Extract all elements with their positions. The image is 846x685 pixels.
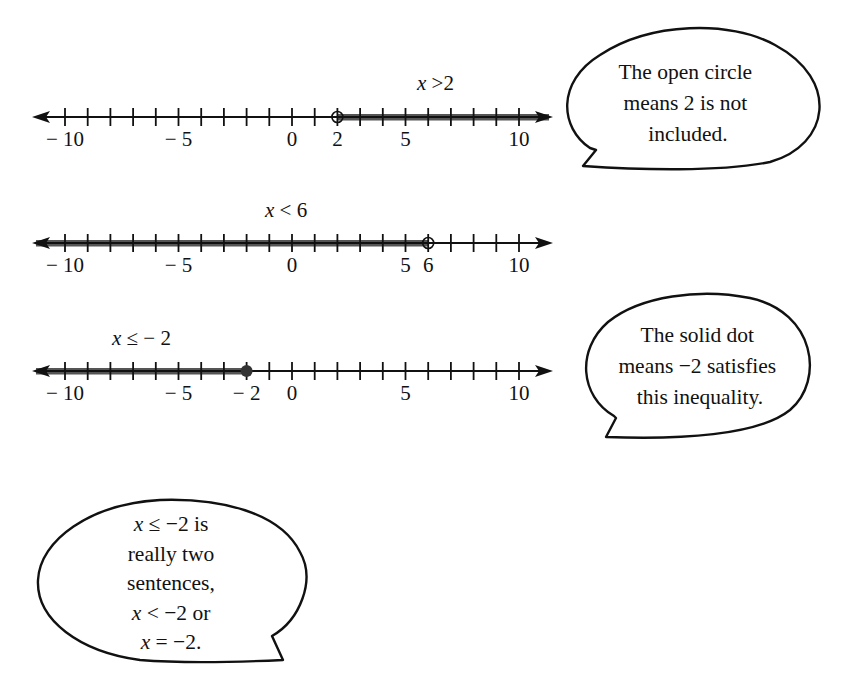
tick-label: 10 [509,381,530,405]
callout-line: really two [128,542,215,566]
tick-label: − 5 [165,381,193,405]
tick-label: − 5 [165,127,193,151]
number-line-line-x-gt-2: − 10− 502510x >2 [32,71,553,151]
callout-open-circle: The open circle means 2 is not included. [567,28,819,169]
tick-label: 0 [287,253,298,277]
callout-line: The solid dot [641,323,754,347]
callout-line: means −2 satisfies [618,354,776,378]
callout-line: x ≤ −2 is [133,512,209,536]
inequality-label: x ≤ − 2 [111,326,171,350]
callout-line: included. [648,122,727,146]
callout-line: means 2 is not [624,91,748,115]
callout-two-sentences: x ≤ −2 isreally twosentences,x < −2 orx … [38,500,306,662]
tick-label: − 2 [233,381,261,405]
tick-label: 10 [509,253,530,277]
callout-line: The open circle [618,60,752,84]
inequality-label: x < 6 [264,198,307,222]
tick-label: 5 [400,253,411,277]
tick-label: 6 [423,253,434,277]
tick-label: − 10 [46,253,84,277]
inequality-label: x >2 [416,71,454,95]
callout-line: x = −2. [140,630,202,654]
tick-label: − 5 [165,253,193,277]
callout-line: x < −2 or [131,601,211,625]
tick-label: 5 [400,127,411,151]
solid-dot-endpoint [241,365,253,377]
number-line-line-x-le-neg2: − 10− 5− 20510x ≤ − 2 [32,326,553,405]
tick-label: 10 [509,127,530,151]
callout-line: this inequality. [637,385,763,409]
callout-text: The solid dot means −2 satisfies this in… [618,323,781,409]
tick-label: − 10 [46,127,84,151]
tick-label: 2 [332,127,343,151]
number-line-line-x-lt-6: − 10− 505610x < 6 [32,198,553,277]
tick-label: − 10 [46,381,84,405]
inequality-diagram: − 10− 502510x >2− 10− 505610x < 6− 10− 5… [0,0,846,685]
callout-solid-dot: The solid dot means −2 satisfies this in… [586,294,810,438]
tick-label: 0 [287,381,298,405]
tick-label: 5 [400,381,411,405]
callout-line: sentences, [127,571,215,595]
number-lines: − 10− 502510x >2− 10− 505610x < 6− 10− 5… [32,71,553,405]
tick-label: 0 [287,127,298,151]
